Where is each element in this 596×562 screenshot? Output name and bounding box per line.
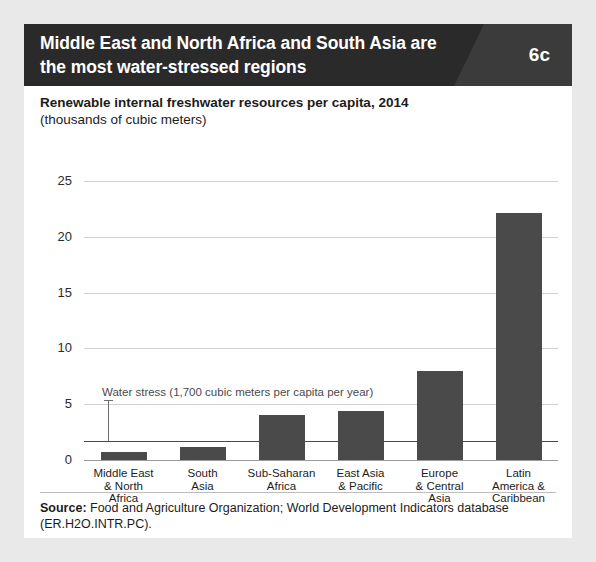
x-axis-category-label-line: Latin — [479, 467, 558, 480]
gridline-15 — [84, 293, 558, 294]
chart-subtitle-line2: (thousands of cubic meters) — [40, 111, 540, 128]
x-axis-category-label: East Asia& Pacific — [321, 467, 400, 492]
x-axis-category-label-line: & Central — [400, 480, 479, 493]
x-axis-category-label-line: South — [163, 467, 242, 480]
y-axis-tick-label: 5 — [46, 396, 72, 411]
x-axis-category-label-line: America & — [479, 480, 558, 493]
figure-title: Middle East and North Africa and South A… — [40, 31, 460, 79]
chart-subtitle-line1: Renewable internal freshwater resources … — [40, 94, 540, 111]
source-divider — [40, 492, 556, 493]
figure-card: Middle East and North Africa and South A… — [24, 24, 572, 538]
water-stress-leader-cap — [104, 400, 113, 401]
x-axis-category-label: Middle East& NorthAfrica — [84, 467, 163, 505]
y-axis-tick-label: 0 — [46, 452, 72, 467]
bar — [259, 415, 305, 460]
gridline-5 — [84, 404, 558, 405]
source-label: Source: — [40, 501, 87, 515]
x-axis-category-label-line: Sub-Saharan — [242, 467, 321, 480]
chart-subtitle: Renewable internal freshwater resources … — [40, 94, 540, 128]
water-stress-leader-line — [108, 400, 109, 441]
bar — [101, 452, 147, 460]
bar — [496, 213, 542, 460]
x-axis-category-label-line: & North — [84, 480, 163, 493]
x-axis-category-label: Europe& CentralAsia — [400, 467, 479, 505]
figure-number-badge: 6c — [529, 24, 550, 86]
x-axis-category-label-line: Middle East — [84, 467, 163, 480]
x-axis-category-label: SouthAsia — [163, 467, 242, 492]
x-axis-category-label: Sub-SaharanAfrica — [242, 467, 321, 492]
y-axis-tick-label: 25 — [46, 173, 72, 188]
bar — [180, 447, 226, 460]
water-stress-annotation-text: Water stress (1,700 cubic meters per cap… — [102, 386, 373, 398]
x-axis-category-label-line: & Pacific — [321, 480, 400, 493]
water-stress-reference-line — [84, 441, 558, 442]
figure-title-bar: Middle East and North Africa and South A… — [24, 24, 572, 86]
x-axis-category-label: LatinAmerica &Caribbean — [479, 467, 558, 505]
gridline-20 — [84, 237, 558, 238]
gridline-10 — [84, 348, 558, 349]
bar — [417, 371, 463, 460]
bar — [338, 411, 384, 460]
gridline-25 — [84, 181, 558, 182]
chart-plot-area: 0510152025Middle East& NorthAfricaSouthA… — [24, 128, 572, 488]
x-axis-category-label-line: East Asia — [321, 467, 400, 480]
source-note: Source: Food and Agriculture Organizatio… — [40, 500, 560, 532]
y-axis-tick-label: 10 — [46, 340, 72, 355]
x-axis-category-label-line: Asia — [163, 480, 242, 493]
y-axis-tick-label: 20 — [46, 229, 72, 244]
source-text: Food and Agriculture Organization; World… — [40, 501, 509, 531]
x-axis-category-label-line: Europe — [400, 467, 479, 480]
x-axis-category-label-line: Africa — [242, 480, 321, 493]
gridline-0 — [84, 460, 558, 461]
y-axis-tick-label: 15 — [46, 285, 72, 300]
